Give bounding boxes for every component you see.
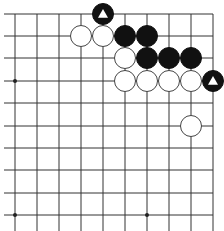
star-point (13, 79, 17, 83)
white-stone (115, 48, 136, 69)
white-stone (137, 71, 158, 92)
white-stone (115, 71, 136, 92)
black-stone (203, 71, 224, 92)
white-stone (181, 116, 202, 137)
black-stone (115, 26, 136, 47)
black-stone (159, 48, 180, 69)
star-point (13, 213, 17, 217)
go-board[interactable] (0, 0, 224, 231)
white-stone (71, 26, 92, 47)
white-stone (181, 71, 202, 92)
black-stone (137, 26, 158, 47)
white-stone (93, 26, 114, 47)
black-stone (93, 4, 114, 25)
white-stone (159, 71, 180, 92)
black-stone (181, 48, 202, 69)
black-stone (137, 48, 158, 69)
star-point (145, 213, 149, 217)
